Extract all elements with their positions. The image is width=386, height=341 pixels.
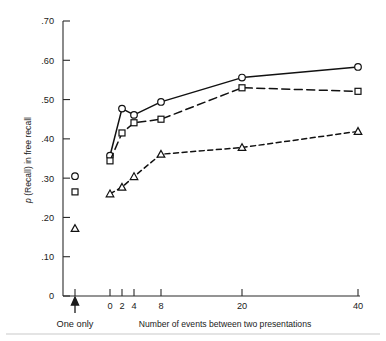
data-point-square [119,130,125,136]
data-point-circle [355,64,362,71]
data-point-square [355,88,361,94]
y-tick-label: 0 [49,291,54,301]
recall-probability-line-chart: .70.60.50.40.30.20.100 02482040 One only… [0,0,386,341]
y-tick-label: .60 [41,56,54,66]
y-tick-label: .50 [41,95,54,105]
figure-container: .70.60.50.40.30.20.100 02482040 One only… [0,0,386,341]
y-tick-label: .70 [41,16,54,26]
data-point-square [158,116,164,122]
x-tick-label: 20 [237,301,247,311]
x-tick-label: 40 [353,301,363,311]
data-point-square [239,85,245,91]
data-point-circle [131,112,138,119]
one-only-point-square [72,189,78,195]
one-only-point-circle [72,173,79,180]
data-point-circle [119,105,126,112]
x-axis-title: Number of events between two presentatio… [139,319,311,329]
data-point-square [131,120,137,126]
data-point-circle [239,74,246,81]
y-axis-title: p (Recall) in free recall [23,117,33,204]
x-tick-label: 4 [131,301,136,311]
data-point-circle [158,99,165,106]
y-axis-title-rest: (Recall) in free recall [23,117,33,198]
one-only-label: One only [57,319,94,329]
y-tick-label: .40 [41,134,54,144]
x-tick-label: 8 [158,301,163,311]
data-point-square [107,158,113,164]
y-tick-label: .20 [41,213,54,223]
x-tick-label: 2 [119,301,124,311]
x-tick-label: 0 [107,301,112,311]
y-tick-label: .30 [41,174,54,184]
y-tick-label: .10 [41,252,54,262]
chart-background [0,0,386,341]
